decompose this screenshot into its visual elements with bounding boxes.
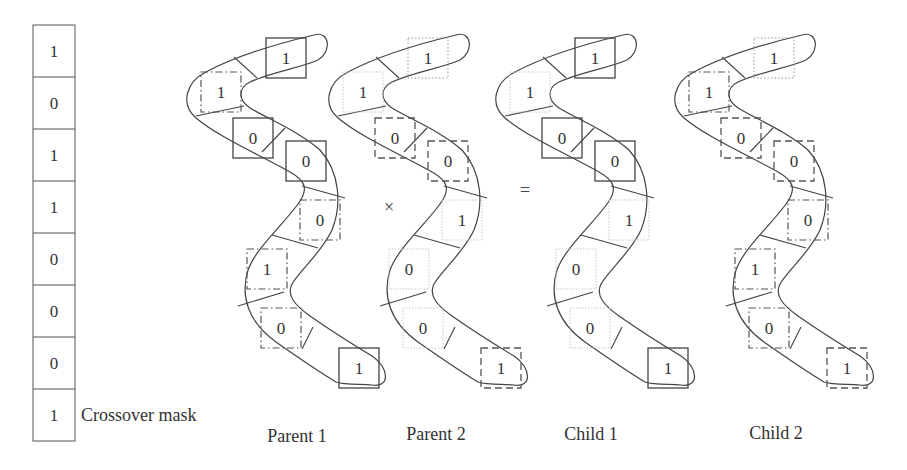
child1-chromosome: 11001001: [496, 34, 695, 388]
mask-bit: 0: [50, 302, 59, 321]
parent2-label: Parent 2: [406, 424, 465, 444]
gene-value: 0: [558, 129, 567, 148]
gene-value: 0: [586, 319, 595, 338]
gene-value: 1: [751, 260, 760, 279]
gene-value: 1: [355, 359, 364, 378]
gene-value: 1: [843, 359, 852, 378]
gene-value: 1: [526, 83, 535, 102]
gene-value: 0: [804, 211, 813, 230]
gene-value: 0: [277, 319, 286, 338]
gene-value: 0: [444, 152, 453, 171]
child2-label: Child 2: [749, 423, 803, 443]
child2-chromosome: 11000101: [675, 34, 874, 388]
crossover-mask: 1 0 1 1 0 0 0 1 Crossover mask: [33, 25, 197, 441]
gene-value: 1: [359, 83, 368, 102]
parent2-chromosome: 11001001: [329, 34, 528, 388]
gene-value: 1: [625, 211, 634, 230]
gene-value: 0: [611, 152, 620, 171]
mask-bit: 0: [50, 94, 59, 113]
parent1-label: Parent 1: [267, 426, 326, 446]
mask-bit: 1: [50, 406, 59, 425]
gene-value: 1: [282, 49, 291, 68]
parent1-chromosome: 11000101: [187, 34, 386, 388]
mask-bit: 0: [50, 250, 59, 269]
gene-value: 1: [664, 359, 673, 378]
mask-bit: 0: [50, 354, 59, 373]
gene-value: 0: [391, 129, 400, 148]
gene-value: 1: [263, 260, 272, 279]
gene-value: 1: [424, 49, 433, 68]
gene-value: 0: [790, 152, 799, 171]
gene-value: 1: [217, 83, 226, 102]
child1-label: Child 1: [564, 424, 618, 444]
gene-value: 1: [497, 359, 506, 378]
gene-value: 0: [302, 152, 311, 171]
mask-bit: 1: [50, 42, 59, 61]
mask-bit: 1: [50, 198, 59, 217]
gene-value: 1: [458, 211, 467, 230]
gene-value: 1: [770, 49, 779, 68]
gene-value: 1: [705, 83, 714, 102]
gene-value: 1: [591, 49, 600, 68]
gene-value: 0: [572, 260, 581, 279]
gene-value: 0: [405, 260, 414, 279]
chromosomes: 11000101110010011100100111000101: [187, 34, 874, 388]
multiply-operator: ×: [384, 197, 394, 217]
gene-value: 0: [765, 319, 774, 338]
mask-bit: 1: [50, 146, 59, 165]
gene-value: 0: [419, 319, 428, 338]
gene-value: 0: [249, 129, 258, 148]
crossover-diagram: 1 0 1 1 0 0 0 1 Crossover mask 110001011…: [0, 0, 907, 470]
gene-value: 0: [316, 211, 325, 230]
mask-label: Crossover mask: [81, 405, 197, 425]
gene-value: 0: [737, 129, 746, 148]
equals-operator: =: [520, 180, 530, 200]
